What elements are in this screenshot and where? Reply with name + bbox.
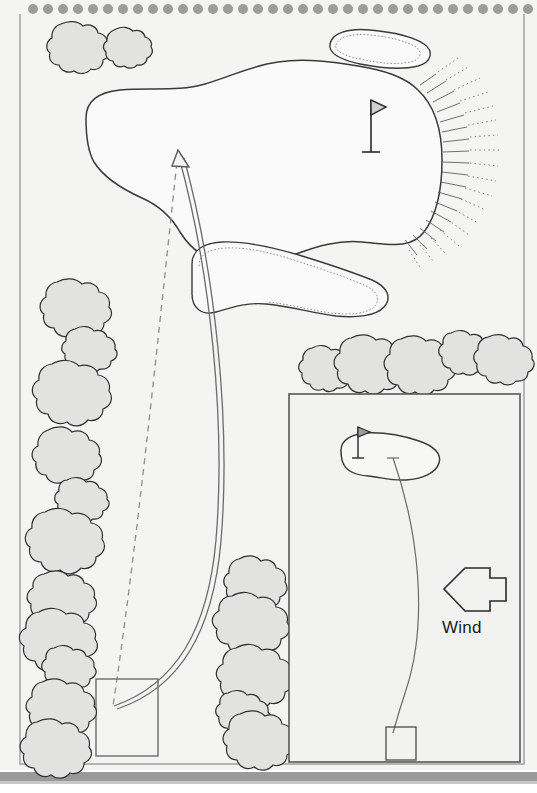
page-artwork — [0, 0, 537, 793]
page-bottom-bar — [0, 772, 537, 781]
yardage-book-page: Wind — [0, 0, 537, 793]
wind-label: Wind — [442, 618, 522, 638]
spiral-binding — [0, 0, 537, 793]
page-bottom-bar-shadow — [0, 781, 537, 784]
